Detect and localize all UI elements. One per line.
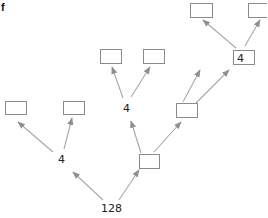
edge-b5-to-b6 — [154, 122, 181, 152]
leaf-box-2 — [64, 102, 85, 115]
leaf-box-7 — [191, 4, 213, 18]
branch-label-mid: 4 — [123, 102, 130, 115]
edge-b6-to-b9 — [196, 70, 229, 103]
edge-mid4-to-b4 — [131, 67, 150, 97]
leaf-box-3 — [101, 50, 122, 64]
leaf-box-4 — [144, 50, 165, 64]
panel-label: f — [1, 1, 5, 13]
boxes — [6, 4, 268, 169]
branch-label-top: 4 — [237, 52, 244, 65]
edge-top4-to-b7 — [203, 20, 236, 48]
edge-top4-to-b8 — [245, 20, 260, 46]
edge-mid4-to-b3 — [112, 67, 123, 98]
edge-left4-to-b2 — [64, 118, 72, 149]
node-box-5 — [140, 155, 160, 169]
edge-root-to-b5 — [119, 170, 139, 200]
branch-label-left: 4 — [58, 153, 65, 166]
edge-left4-to-b1 — [18, 122, 53, 152]
edge-b6-to-top4 — [183, 70, 200, 102]
edge-root-to-left4 — [73, 172, 103, 200]
node-box-6 — [177, 104, 198, 118]
edges — [18, 20, 260, 200]
leaf-box-1 — [6, 102, 27, 115]
root-label: 128 — [101, 202, 122, 215]
tree-diagram: f 4 4 4 128 — [0, 0, 267, 218]
leaf-box-8 — [249, 4, 268, 18]
edge-b5-to-mid4 — [131, 121, 141, 153]
